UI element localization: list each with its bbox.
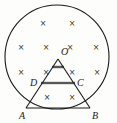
point-label-O: O bbox=[61, 46, 68, 57]
field-into-page-cross-icon: × bbox=[69, 93, 76, 102]
point-label-A: A bbox=[18, 110, 26, 121]
point-label-C: C bbox=[77, 77, 84, 88]
field-into-page-cross-icon: × bbox=[40, 19, 47, 28]
field-into-page-cross-icon: × bbox=[69, 68, 76, 77]
point-label-D: D bbox=[29, 77, 38, 88]
field-into-page-cross-icon: × bbox=[18, 43, 25, 52]
field-into-page-cross-icon: × bbox=[18, 68, 25, 77]
field-into-page-cross-icon: × bbox=[43, 43, 50, 52]
figure-canvas: ×××××××××××× OABDC bbox=[0, 0, 117, 123]
field-into-page-cross-icon: × bbox=[93, 43, 100, 52]
geometry-figure: ×××××××××××× OABDC bbox=[0, 0, 117, 123]
field-into-page-cross-icon: × bbox=[44, 93, 51, 102]
circle-outline bbox=[5, 5, 109, 109]
point-label-B: B bbox=[92, 110, 98, 121]
field-into-page-cross-icon: × bbox=[43, 68, 50, 77]
field-into-page-cross-icon: × bbox=[94, 68, 101, 77]
field-region-circle bbox=[5, 5, 109, 109]
field-into-page-cross-icon: × bbox=[69, 19, 76, 28]
